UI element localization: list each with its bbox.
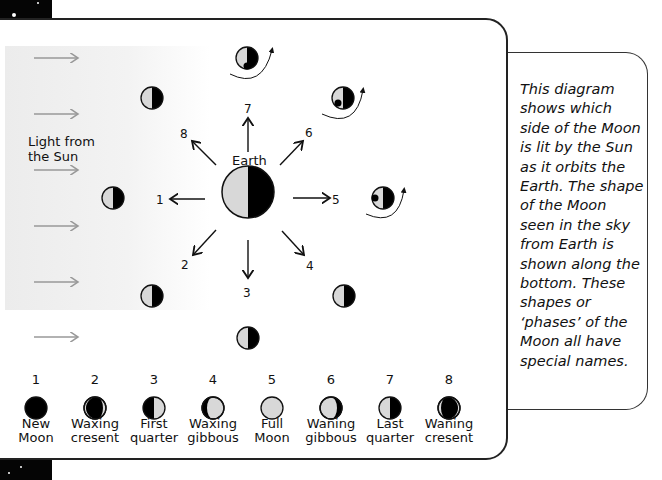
sunlight-arrows: [34, 58, 78, 337]
phase-name: Waningcresent: [414, 417, 484, 445]
svg-text:8: 8: [180, 127, 188, 141]
svg-text:6: 6: [305, 126, 313, 140]
svg-text:3: 3: [243, 286, 251, 300]
svg-text:7: 7: [244, 102, 252, 116]
phase-waning-crescent: 8Waningcresent: [414, 373, 484, 445]
svg-text:1: 1: [156, 193, 164, 207]
svg-text:4: 4: [306, 259, 314, 273]
earth-icon: [222, 166, 274, 218]
svg-text:5: 5: [332, 193, 340, 207]
svg-text:2: 2: [181, 258, 189, 272]
phase-number: 8: [414, 373, 484, 387]
